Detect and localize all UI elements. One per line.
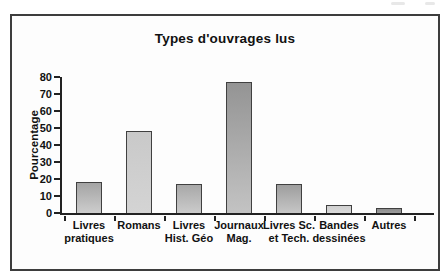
- bar-romans: [126, 131, 152, 213]
- bar-journaux-mag: [226, 82, 252, 213]
- scan-artifact: [391, 1, 435, 6]
- y-tick-mark: [54, 212, 60, 214]
- bar-livres-pratiques: [76, 182, 102, 213]
- y-tick-mark: [54, 93, 60, 95]
- plot-area: 0 10 20 30 40 50 60 70 80: [60, 77, 434, 215]
- y-tick-label: 80: [16, 71, 52, 84]
- y-tick-label: 10: [16, 190, 52, 203]
- y-tick-mark: [54, 161, 60, 163]
- y-tick-label: 30: [16, 156, 52, 169]
- y-tick-mark: [54, 195, 60, 197]
- y-tick-label: 0: [16, 207, 52, 220]
- y-tick-mark: [54, 76, 60, 78]
- y-tick-label: 20: [16, 173, 52, 186]
- bar-autres: [376, 208, 402, 213]
- y-tick-label: 60: [16, 105, 52, 118]
- y-tick-mark: [54, 144, 60, 146]
- y-tick-mark: [54, 110, 60, 112]
- y-tick-mark: [54, 178, 60, 180]
- chart-frame: Types d'ouvrages lus Pourcentage 0 10 20…: [10, 14, 440, 271]
- x-label-autres: Autres: [358, 219, 420, 232]
- y-tick-mark: [54, 127, 60, 129]
- bar-bandes-dessinees: [326, 205, 352, 214]
- y-tick-label: 40: [16, 139, 52, 152]
- bar-livres-hist-geo: [176, 184, 202, 213]
- chart-title: Types d'ouvrages lus: [12, 31, 438, 46]
- y-tick-label: 70: [16, 88, 52, 101]
- bar-livres-sc-et-tech: [276, 184, 302, 213]
- y-tick-label: 50: [16, 122, 52, 135]
